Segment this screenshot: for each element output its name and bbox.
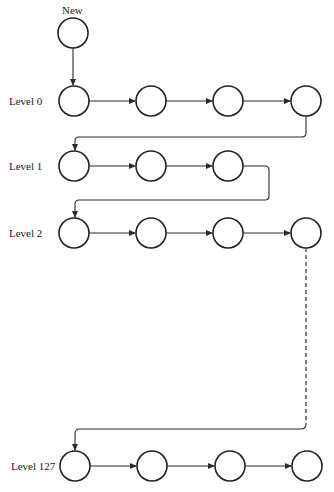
edge-level0-to-level1: [75, 116, 306, 150]
new-node: [58, 18, 88, 48]
level-127-node-4: [292, 451, 322, 481]
level-127-node-3: [215, 451, 245, 481]
level-2-node-3: [213, 218, 243, 248]
level-2-node-1: [59, 218, 89, 248]
level-2-label: Level 2: [9, 227, 42, 239]
level-0-node-2: [136, 86, 166, 116]
level-127-node-1: [60, 451, 90, 481]
level-2-row: [59, 218, 321, 248]
level-1-row: [59, 151, 243, 181]
level-0-row: [59, 86, 321, 116]
level-127-row: [60, 451, 322, 481]
edge-gap-to-level127: [75, 424, 306, 450]
skip-list-diagram: [0, 0, 334, 492]
level-2-node-4: [291, 218, 321, 248]
level-0-node-3: [213, 86, 243, 116]
level-1-label: Level 1: [9, 160, 42, 172]
level-1-node-3: [213, 151, 243, 181]
level-0-label: Level 0: [9, 95, 42, 107]
level-1-node-1: [59, 151, 89, 181]
level-1-node-2: [136, 151, 166, 181]
level-0-node-4: [291, 86, 321, 116]
level-127-node-2: [137, 451, 167, 481]
level-2-node-2: [136, 218, 166, 248]
new-node-label: New: [62, 4, 83, 16]
level-127-label: Level 127: [11, 460, 55, 472]
level-0-node-1: [59, 86, 89, 116]
